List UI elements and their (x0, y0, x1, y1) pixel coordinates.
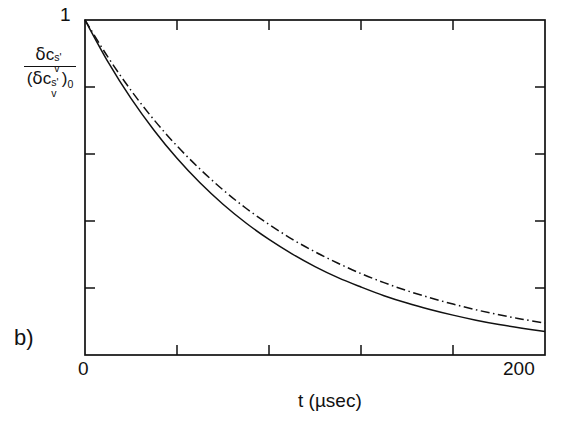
y-axis-label-numerator: δcs'v (14, 46, 86, 65)
x-axis-max-tick-label: 200 (503, 358, 535, 380)
subscript-v-denominator: v (51, 88, 56, 99)
x-axis-title: t (µsec) (298, 390, 362, 412)
x-axis-ticks-bottom (177, 345, 453, 355)
delta-symbol-denominator: δ (32, 68, 42, 88)
x-axis-min-tick-label: 0 (78, 358, 89, 380)
c-symbol-denominator: c (43, 69, 52, 88)
x-axis-ticks-top (177, 20, 453, 30)
y-axis-ticks-left (85, 87, 95, 288)
panel-label: b) (14, 325, 34, 351)
y-axis-label-denominator: (δcs'v)0 (14, 69, 86, 88)
subscript-zero: 0 (67, 79, 73, 91)
delta-symbol: δ (35, 44, 45, 64)
subscript-v: v (54, 63, 59, 74)
figure-panel: δcs'v (δcs'v)0 1 0 200 t (µsec) b) (0, 0, 576, 433)
c-symbol: c (46, 45, 55, 64)
fraction-bar (24, 66, 76, 68)
dash-dot-curve (85, 20, 545, 323)
solid-curve (85, 20, 545, 332)
y-axis-max-tick-label: 1 (60, 4, 71, 26)
y-axis-label: δcs'v (δcs'v)0 (14, 46, 86, 88)
y-axis-ticks-right (535, 87, 545, 288)
plot-frame (85, 20, 545, 355)
